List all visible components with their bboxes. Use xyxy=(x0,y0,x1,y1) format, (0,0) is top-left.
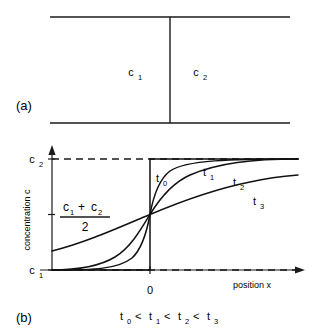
curve-label-t2-subscript: 2 xyxy=(240,183,244,192)
y-axis-arrowhead xyxy=(48,145,55,155)
curve-label-t0: t xyxy=(156,172,159,184)
x-axis-origin-label: 0 xyxy=(147,284,153,296)
caption-operator-3: < xyxy=(193,310,199,322)
panel-a-right-concentration-subscript: 2 xyxy=(203,73,207,82)
curve-t2-profile xyxy=(52,159,298,270)
y-label-c2: c xyxy=(29,153,35,165)
y-label-c1-subscript: 1 xyxy=(39,271,43,280)
fraction-numerator-c2-subscript: 2 xyxy=(98,208,102,217)
curve-t0-step-profile xyxy=(52,159,298,270)
curve-label-t2: t xyxy=(233,176,236,188)
panel-a-group: c 1 c 2 (a) xyxy=(16,17,290,123)
panel-b-label: (b) xyxy=(16,310,32,325)
caption-operator-1: < xyxy=(135,310,141,322)
caption-t3: t xyxy=(207,310,210,322)
caption-t2-subscript: 2 xyxy=(185,317,189,326)
fraction-plus-sign: + xyxy=(78,200,85,214)
y-label-c2-subscript: 2 xyxy=(39,160,43,169)
x-axis-title: position x xyxy=(233,280,272,290)
panel-b-group: t 0 t 1 t 2 t 3 c 2 c 1 c 1 + c 2 2 xyxy=(16,145,305,326)
fraction-denominator: 2 xyxy=(82,220,89,234)
panel-a-left-concentration-subscript: 1 xyxy=(138,73,142,82)
y-label-c1: c xyxy=(29,264,35,276)
fraction-numerator-c1-subscript: 1 xyxy=(70,208,74,217)
panel-b-caption: t 0 < t 1 < t 2 < t 3 xyxy=(120,310,218,326)
panel-a-left-concentration-label: c xyxy=(128,66,134,78)
caption-t1: t xyxy=(149,310,152,322)
y-label-midpoint-fraction: c 1 + c 2 2 xyxy=(60,200,110,234)
curve-label-t3-subscript: 3 xyxy=(260,202,264,211)
caption-operator-2: < xyxy=(164,310,170,322)
curve-label-t0-subscript: 0 xyxy=(163,179,167,188)
fraction-numerator-c2: c xyxy=(91,200,97,214)
panel-a-label: (a) xyxy=(16,98,32,113)
caption-t3-subscript: 3 xyxy=(214,317,218,326)
curve-t3-profile xyxy=(52,175,298,251)
fraction-numerator-c1: c xyxy=(63,200,69,214)
figure-canvas: c 1 c 2 (a) xyxy=(0,0,317,332)
curve-label-t3: t xyxy=(253,195,256,207)
caption-t0-subscript: 0 xyxy=(127,317,131,326)
curve-t1-profile xyxy=(52,159,298,270)
diffusion-figure: c 1 c 2 (a) xyxy=(0,0,317,332)
curve-label-t1-subscript: 1 xyxy=(210,173,214,182)
caption-t2: t xyxy=(178,310,181,322)
caption-t1-subscript: 1 xyxy=(156,317,160,326)
y-axis-title: concentration c xyxy=(22,189,32,251)
curve-label-t1: t xyxy=(203,166,206,178)
caption-t0: t xyxy=(120,310,123,322)
panel-a-right-concentration-label: c xyxy=(193,66,199,78)
